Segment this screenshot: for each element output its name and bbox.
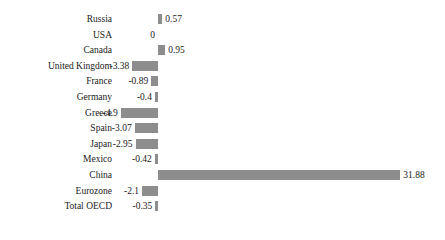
category-label: Russia [0, 12, 112, 26]
bar-plot-area: -3.38 [118, 59, 445, 73]
category-label: France [0, 74, 112, 88]
bar-chart: Russia0.57USA0Canada0.95United Kingdom-3… [0, 0, 445, 240]
bar [155, 92, 158, 102]
bar-row: Germany-0.4 [0, 90, 445, 104]
bar-plot-area: -0.89 [118, 74, 445, 88]
category-label: China [0, 168, 112, 182]
value-label: 31.88 [403, 168, 424, 182]
category-label: USA [0, 28, 112, 42]
bar-plot-area: -0.35 [118, 199, 445, 213]
bar-row: Spain-3.07 [0, 121, 445, 135]
bar-plot-area: 31.88 [118, 168, 445, 182]
bar [151, 76, 158, 86]
bar-row: Japan-2.95 [0, 137, 445, 151]
bar-row: Canada0.95 [0, 43, 445, 57]
bar [136, 139, 158, 149]
category-label: Spain [0, 121, 112, 135]
bar [155, 201, 158, 211]
bar-row: USA0 [0, 28, 445, 42]
bar-plot-area: 0.95 [118, 43, 445, 57]
bar [132, 61, 158, 71]
value-label: 0.57 [165, 12, 182, 26]
bar-plot-area: 0.57 [118, 12, 445, 26]
bar-row: France-0.89 [0, 74, 445, 88]
category-label: United Kingdom [0, 59, 112, 73]
value-label: -4.9 [103, 106, 118, 120]
bar-row: Eurozone-2.1 [0, 184, 445, 198]
bar-plot-area: -4.9 [118, 106, 445, 120]
category-label: Japan [0, 137, 112, 151]
value-label: -3.07 [112, 121, 132, 135]
bar [155, 154, 158, 164]
bar-plot-area: -0.42 [118, 152, 445, 166]
value-label: -2.95 [113, 137, 133, 151]
bar-row: Russia0.57 [0, 12, 445, 26]
bar-row: United Kingdom-3.38 [0, 59, 445, 73]
value-label: -3.38 [110, 59, 130, 73]
bar [142, 186, 158, 196]
bar-row: Mexico-0.42 [0, 152, 445, 166]
bar-row: China31.88 [0, 168, 445, 182]
bar [158, 45, 165, 55]
category-label: Total OECD [0, 199, 112, 213]
category-label: Germany [0, 90, 112, 104]
value-label: -0.89 [128, 74, 148, 88]
bar [158, 14, 162, 24]
value-label: 0.95 [168, 43, 185, 57]
category-label: Mexico [0, 152, 112, 166]
value-label: -0.35 [133, 199, 153, 213]
value-label: -2.1 [124, 184, 139, 198]
bar [121, 108, 158, 118]
bar-plot-area: 0 [118, 28, 445, 42]
category-label: Greece [0, 106, 112, 120]
bar-plot-area: -2.1 [118, 184, 445, 198]
bar-row: Greece-4.9 [0, 106, 445, 120]
value-label: -0.4 [137, 90, 152, 104]
bar [158, 170, 400, 180]
category-label: Eurozone [0, 184, 112, 198]
bar [135, 123, 158, 133]
value-label: 0 [150, 28, 155, 42]
bar-plot-area: -0.4 [118, 90, 445, 104]
bar-plot-area: -3.07 [118, 121, 445, 135]
bar-row: Total OECD-0.35 [0, 199, 445, 213]
category-label: Canada [0, 43, 112, 57]
bar-plot-area: -2.95 [118, 137, 445, 151]
value-label: -0.42 [132, 152, 152, 166]
